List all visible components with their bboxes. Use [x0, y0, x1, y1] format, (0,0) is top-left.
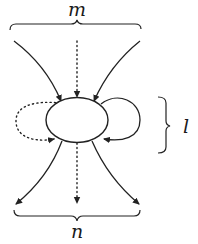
right-brace-label: l [183, 115, 189, 137]
right-brace [158, 97, 170, 153]
top-brace [10, 20, 141, 30]
graph-diagram: m n l [0, 0, 198, 244]
edge-out-left [16, 141, 62, 204]
bottom-brace-label: n [71, 220, 83, 242]
edge-out-right [92, 141, 139, 204]
top-brace-label: m [68, 0, 86, 20]
edge-in-right [94, 41, 140, 101]
node-ellipse [46, 98, 108, 143]
edge-in-left [14, 41, 61, 101]
